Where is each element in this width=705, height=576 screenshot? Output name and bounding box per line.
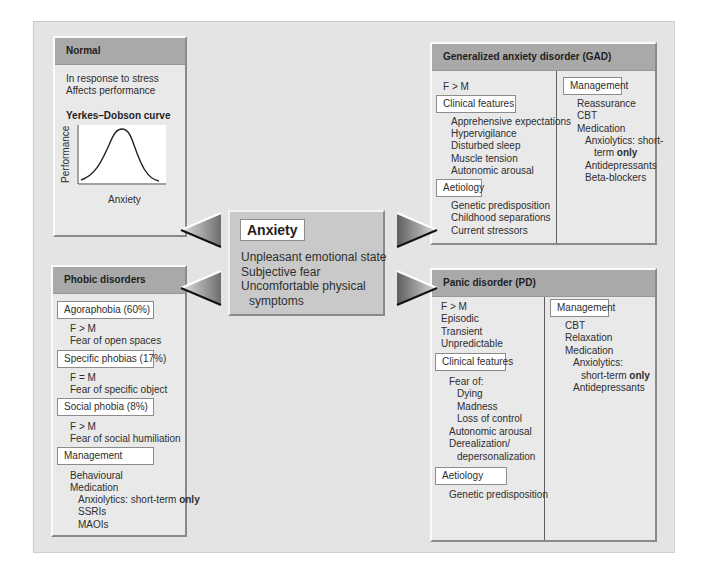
gad-aetiology-label: Aetiology	[436, 179, 482, 197]
panic-fear-1: Dying	[457, 388, 483, 401]
gad-clinical-4: Muscle tension	[451, 153, 518, 166]
phobic-medication-2: SSRIs	[78, 506, 106, 519]
gad-box: Generalized anxiety disorder (GAD) F > M…	[430, 42, 657, 245]
yerkes-dobson-chart	[77, 125, 166, 185]
gad-clinical-5: Autonomic arousal	[451, 165, 534, 178]
panic-intro-1: F > M	[441, 301, 467, 314]
panic-clinical-label: Clinical features	[435, 353, 506, 371]
gad-clinical-label: Clinical features	[436, 95, 516, 113]
social-phobia-label: Social phobia (8%)	[57, 398, 154, 416]
gad-clinical-1: Apprehensive expectations	[451, 116, 571, 129]
gad-header: Generalized anxiety disorder (GAD)	[432, 44, 655, 71]
agoraphobia-label: Agoraphobia (60%)	[57, 301, 154, 319]
panic-fear-2: Madness	[457, 401, 498, 414]
panic-other-1: Autonomic arousal	[449, 426, 532, 439]
social-2: Fear of social humiliation	[70, 433, 181, 446]
gad-aetiology-1: Genetic predisposition	[451, 200, 550, 213]
gad-clinical-3: Disturbed sleep	[451, 140, 520, 153]
phobic-anxiolytics: Anxiolytics: short-term	[78, 494, 176, 505]
gad-medication-1b: term only	[594, 147, 637, 160]
gad-management-3: Medication	[577, 123, 625, 136]
arrow-left-to-phobic-icon	[177, 268, 225, 308]
specific-1: F = M	[70, 372, 96, 385]
panic-medication-1b: short-term only	[581, 370, 650, 383]
anxiety-line-3: Uncomfortable physical	[241, 279, 386, 294]
phobic-only: only	[179, 494, 200, 505]
panic-aetiology-label: Aetiology	[435, 467, 507, 485]
panic-header: Panic disorder (PD)	[432, 270, 655, 297]
phobic-box: Phobic disorders Agoraphobia (60%) F > M…	[51, 265, 187, 537]
gad-management-1: Reassurance	[577, 98, 636, 111]
panic-other-2: Derealization/	[449, 438, 510, 451]
panic-intro-4: Unpredictable	[441, 338, 503, 351]
anxiety-description: Unpleasant emotional state Subjective fe…	[241, 250, 386, 308]
arrow-right-to-panic-icon	[393, 268, 441, 308]
phobic-header: Phobic disorders	[53, 267, 185, 294]
panic-divider	[544, 297, 545, 540]
gad-aetiology-3: Current stressors	[451, 225, 528, 238]
panic-medication-2: Antidepressants	[573, 382, 645, 395]
arrow-right-to-gad-icon	[393, 210, 441, 250]
panic-aetiology-1: Genetic predisposition	[449, 489, 548, 502]
gad-aetiology-2: Childhood separations	[451, 212, 551, 225]
phobic-medication-1: Anxiolytics: short-term only	[78, 494, 200, 507]
panic-management-label: Management	[550, 299, 609, 317]
normal-box: Normal In response to stress Affects per…	[53, 36, 187, 237]
specific-phobias-label: Specific phobias (17%)	[57, 350, 154, 368]
gad-clinical-2: Hypervigilance	[451, 128, 517, 141]
yerkes-dobson-title: Yerkes–Dobson curve	[66, 110, 171, 123]
specific-2: Fear of specific object	[70, 384, 167, 397]
normal-header: Normal	[55, 38, 185, 65]
anxiety-title: Anxiety	[240, 219, 305, 241]
normal-line-1: In response to stress	[66, 73, 159, 86]
panic-management-3: Medication	[565, 345, 613, 358]
panic-only: only	[629, 370, 650, 381]
gad-management-2: CBT	[577, 110, 597, 123]
panic-box: Panic disorder (PD) F > M Episodic Trans…	[430, 268, 657, 542]
social-1: F > M	[70, 421, 96, 434]
agoraphobia-2: Fear of open spaces	[70, 335, 161, 348]
gad-medication-2: Antidepressants	[585, 160, 657, 173]
anxiety-line-2: Subjective fear	[241, 265, 386, 280]
arrow-left-to-normal-icon	[177, 210, 225, 250]
panic-fear-of: Fear of:	[449, 376, 483, 389]
gad-medication-term: term	[594, 147, 614, 158]
anxiety-line-1: Unpleasant emotional state	[241, 250, 386, 265]
phobic-management-label: Management	[57, 447, 154, 465]
phobic-management-2: Medication	[70, 482, 118, 495]
panic-management-2: Relaxation	[565, 332, 612, 345]
anxiety-line-4: symptoms	[241, 294, 386, 309]
panic-short-term: short-term	[581, 370, 627, 381]
gad-divider	[556, 71, 557, 243]
phobic-management-1: Behavioural	[70, 470, 123, 483]
x-axis-label: Anxiety	[108, 194, 141, 207]
panic-medication-1: Anxiolytics:	[573, 357, 623, 370]
gad-medication-1: Anxiolytics: short-	[585, 135, 663, 148]
gad-sex-ratio: F > M	[443, 81, 469, 94]
bell-curve-icon	[77, 125, 166, 185]
panic-intro-3: Transient	[441, 326, 482, 339]
y-axis-label: Performance	[60, 126, 73, 183]
panic-intro-2: Episodic	[441, 313, 479, 326]
gad-medication-3: Beta-blockers	[585, 172, 646, 185]
panic-fear-3: Loss of control	[457, 413, 522, 426]
gad-medication-only: only	[617, 147, 638, 158]
agoraphobia-1: F > M	[70, 323, 96, 336]
panic-other-3: depersonalization	[457, 451, 535, 464]
normal-line-2: Affects performance	[66, 85, 155, 98]
phobic-medication-3: MAOIs	[78, 519, 109, 532]
anxiety-box: Anxiety Unpleasant emotional state Subje…	[228, 210, 385, 316]
panic-management-1: CBT	[565, 320, 585, 333]
gad-management-label: Management	[563, 77, 622, 95]
